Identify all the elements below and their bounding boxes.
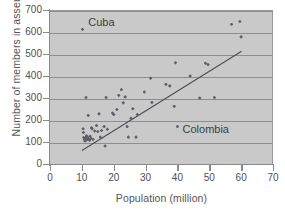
y-axis-tick	[43, 54, 50, 55]
gridline	[50, 143, 273, 144]
y-axis-tick	[43, 32, 50, 33]
y-axis-tick-label: 300	[12, 92, 42, 103]
y-axis-tick	[43, 164, 50, 165]
gridline	[50, 33, 273, 34]
x-axis-tick	[241, 165, 242, 171]
x-axis-tick-label: 40	[164, 172, 190, 183]
x-axis-tick-label: 10	[69, 172, 95, 183]
gridline	[50, 77, 273, 78]
x-axis-tick	[82, 165, 83, 171]
x-axis-tick-label: 70	[260, 172, 285, 183]
y-axis-tick-label: 200	[12, 114, 42, 125]
y-axis-tick-label: 100	[12, 136, 42, 147]
x-axis-tick	[114, 165, 115, 171]
x-axis-tick-label: 30	[133, 172, 159, 183]
x-axis-tick	[146, 165, 147, 171]
gridline	[50, 11, 273, 12]
x-axis-tick-label: 0	[37, 172, 63, 183]
y-axis-tick	[43, 76, 50, 77]
x-axis-tick	[273, 165, 274, 171]
y-axis-tick-label: 500	[12, 48, 42, 59]
y-axis-tick-label: 0	[12, 158, 42, 169]
x-axis-title: Population (million)	[50, 192, 273, 204]
gridline	[50, 55, 273, 56]
y-axis-tick	[43, 120, 50, 121]
y-axis-tick-label: 400	[12, 70, 42, 81]
annotation-label-colombia: Colombia	[183, 123, 229, 135]
y-axis-tick	[43, 142, 50, 143]
x-axis-tick	[50, 165, 51, 171]
scatter-chart: Number of members in assembly Population…	[0, 0, 285, 212]
y-axis-tick	[43, 98, 50, 99]
x-axis-tick-label: 50	[196, 172, 222, 183]
gridline	[50, 121, 273, 122]
x-axis-tick	[209, 165, 210, 171]
y-axis-tick-label: 700	[12, 4, 42, 15]
x-axis-tick-label: 60	[228, 172, 254, 183]
y-axis-tick	[43, 10, 50, 11]
y-axis-tick-label: 600	[12, 26, 42, 37]
x-axis-tick	[177, 165, 178, 171]
x-axis-tick-label: 20	[101, 172, 127, 183]
annotation-label-cuba: Cuba	[88, 16, 114, 28]
